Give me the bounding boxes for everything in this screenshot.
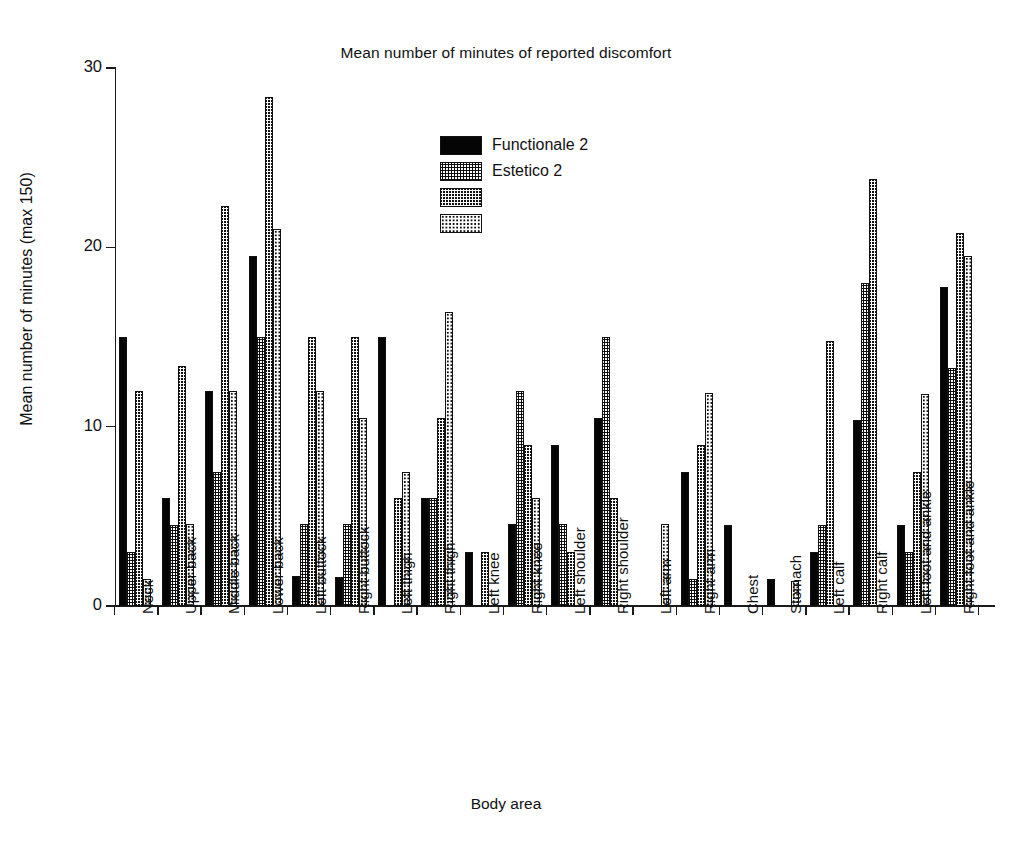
bar	[724, 525, 732, 606]
bar	[119, 337, 127, 606]
chart-figure: Mean number of minutes of reported disco…	[0, 0, 1012, 845]
x-tick	[330, 606, 331, 615]
bar	[853, 420, 861, 607]
bar-group	[721, 68, 764, 606]
x-tick	[892, 606, 893, 615]
bar-group	[289, 68, 332, 606]
bar-group	[159, 68, 202, 606]
bar-group	[246, 68, 289, 606]
bar	[292, 576, 300, 606]
bar	[170, 525, 178, 606]
x-tick	[676, 606, 677, 615]
x-axis-label: Lower back	[269, 537, 286, 614]
y-axis-title: Mean number of minutes (max 150)	[18, 19, 36, 579]
y-tick-label: 0	[58, 595, 102, 614]
bar	[127, 552, 135, 606]
legend-item	[440, 210, 588, 236]
bar	[162, 498, 170, 606]
x-axis-label: Right calf	[873, 551, 890, 614]
y-tick-label: 20	[58, 236, 102, 255]
bar-group	[764, 68, 807, 606]
bar	[135, 391, 143, 606]
bar-group	[202, 68, 245, 606]
x-tick	[805, 606, 806, 615]
x-tick	[935, 606, 936, 615]
x-tick	[287, 606, 288, 615]
legend-label: Functionale 2	[492, 136, 588, 154]
bar	[818, 525, 826, 606]
bar-group	[634, 68, 677, 606]
bar	[551, 445, 559, 606]
x-tick	[762, 606, 763, 615]
x-axis-label: Chest	[744, 575, 761, 614]
legend-swatch	[440, 162, 482, 181]
bar	[378, 337, 386, 606]
y-tick	[106, 67, 116, 68]
x-tick	[114, 606, 115, 615]
x-axis-label: Right arm	[701, 549, 718, 614]
bar	[343, 524, 351, 606]
bar	[421, 498, 429, 606]
bar	[213, 472, 221, 607]
bar	[335, 577, 343, 606]
x-axis-label: Left knee	[485, 552, 502, 614]
bar	[559, 524, 567, 606]
bar	[257, 337, 265, 606]
chart-legend: Functionale 2Estetico 2	[440, 132, 588, 236]
legend-item	[440, 184, 588, 210]
x-axis-label: Left calf	[830, 561, 847, 614]
legend-swatch	[440, 214, 482, 233]
legend-swatch	[440, 136, 482, 155]
x-tick	[503, 606, 504, 615]
bar	[508, 524, 516, 606]
x-axis-label: Right thigh	[441, 542, 458, 614]
x-axis-label: Middle back	[225, 534, 242, 614]
legend-label: Estetico 2	[492, 162, 562, 180]
x-axis-label: Upper back	[182, 537, 199, 614]
bar	[429, 498, 437, 606]
x-axis-label: Neck	[139, 580, 156, 614]
x-axis-label: Right knee	[528, 542, 545, 614]
bar	[594, 418, 602, 606]
bar	[948, 368, 956, 607]
bar-group	[116, 68, 159, 606]
x-tick	[460, 606, 461, 615]
bar	[861, 283, 869, 606]
bar	[681, 472, 689, 607]
bar	[810, 552, 818, 606]
bar	[869, 179, 877, 606]
bar-group	[678, 68, 721, 606]
x-axis-label: Right buttock	[355, 526, 372, 614]
y-tick	[106, 247, 116, 248]
bar	[265, 97, 273, 606]
legend-swatch	[440, 188, 482, 207]
y-tick-label: 10	[58, 416, 102, 435]
x-axis-label: Left arm	[657, 559, 674, 614]
y-tick	[106, 426, 116, 427]
x-tick	[589, 606, 590, 615]
legend-item: Estetico 2	[440, 158, 588, 184]
bar	[897, 525, 905, 606]
x-tick	[978, 606, 979, 615]
x-axis-label: Right foot and ankle	[960, 481, 977, 614]
x-axis-label: Left foot and ankle	[917, 491, 934, 614]
x-tick	[546, 606, 547, 615]
y-tick-label: 30	[58, 57, 102, 76]
x-axis-label: Left thigh	[398, 552, 415, 614]
x-axis-label: Left buttock	[312, 536, 329, 614]
x-axis-label: Stomach	[787, 555, 804, 614]
bar	[300, 524, 308, 606]
bar	[465, 552, 473, 606]
bar-group	[375, 68, 418, 606]
bar	[205, 391, 213, 606]
chart-title: Mean number of minutes of reported disco…	[0, 44, 1012, 62]
legend-item: Functionale 2	[440, 132, 588, 158]
x-tick	[200, 606, 201, 615]
x-tick	[157, 606, 158, 615]
bar	[249, 256, 257, 606]
x-tick	[373, 606, 374, 615]
x-tick	[848, 606, 849, 615]
x-tick	[632, 606, 633, 615]
bar-group	[850, 68, 893, 606]
bar	[689, 579, 697, 606]
